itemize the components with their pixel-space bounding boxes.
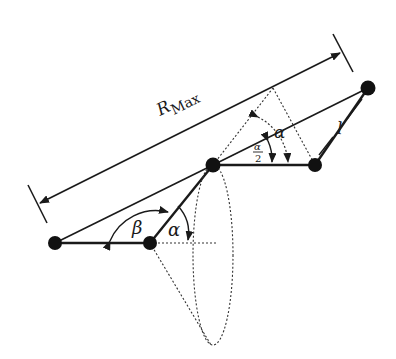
robot-arm-reach-diagram: RMax β α α α 2 l (0, 0, 396, 359)
rmax-dimension-line (190, 53, 340, 128)
joint-3-node (206, 158, 221, 173)
joint-4-node (308, 158, 322, 172)
joint-2-node (143, 236, 157, 250)
joint-1-node (48, 236, 62, 250)
cone-edge-lower (150, 243, 211, 345)
link-length-leader-upper (347, 99, 362, 119)
joints (48, 81, 376, 251)
reach-line-joint3-to-end (213, 88, 368, 165)
link-length-leader-lower (319, 137, 333, 155)
alpha-upper-label: α (274, 122, 286, 142)
alpha-lower-label: α (168, 219, 180, 240)
alpha-half-denominator: 2 (255, 153, 261, 164)
alpha-half-numerator: α (254, 141, 261, 152)
end-effector-node (361, 81, 376, 96)
rmax-label: RMax (152, 83, 203, 124)
link-length-label: l (335, 118, 344, 139)
rmax-end-tick-right (333, 34, 353, 72)
beta-label: β (131, 217, 142, 238)
cone-ellipse (193, 165, 233, 345)
rmax-end-tick-left (28, 185, 47, 223)
upper-cone-edge-left (213, 88, 273, 165)
rmax-dimension-line (40, 128, 190, 203)
alpha-half-arc (268, 141, 272, 162)
